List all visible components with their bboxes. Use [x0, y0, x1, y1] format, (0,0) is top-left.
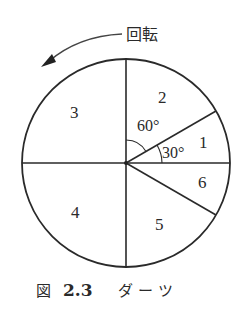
caption-title: ダ ー ツ — [118, 282, 173, 300]
angle-label-60: 60° — [137, 117, 159, 134]
caption-number: 2.3 — [63, 280, 93, 300]
dartboard-figure: 回転 60° 30° 2 1 6 5 4 3 図 2.3 ダ ー ツ — [0, 0, 240, 319]
rotation-arrow — [48, 34, 122, 62]
sector-label-2: 2 — [158, 88, 167, 107]
sector-label-5: 5 — [155, 215, 164, 234]
sector-label-3: 3 — [70, 103, 79, 122]
sector-label-6: 6 — [198, 173, 207, 192]
rotation-label: 回転 — [126, 25, 158, 44]
sector-label-1: 1 — [199, 133, 208, 152]
angle-label-30: 30° — [162, 144, 184, 161]
caption-prefix: 図 — [36, 282, 51, 300]
center-point — [124, 161, 128, 165]
angle-arc-60 — [126, 140, 146, 152]
arrow-head-icon — [41, 54, 56, 67]
sector-label-4: 4 — [71, 203, 80, 222]
